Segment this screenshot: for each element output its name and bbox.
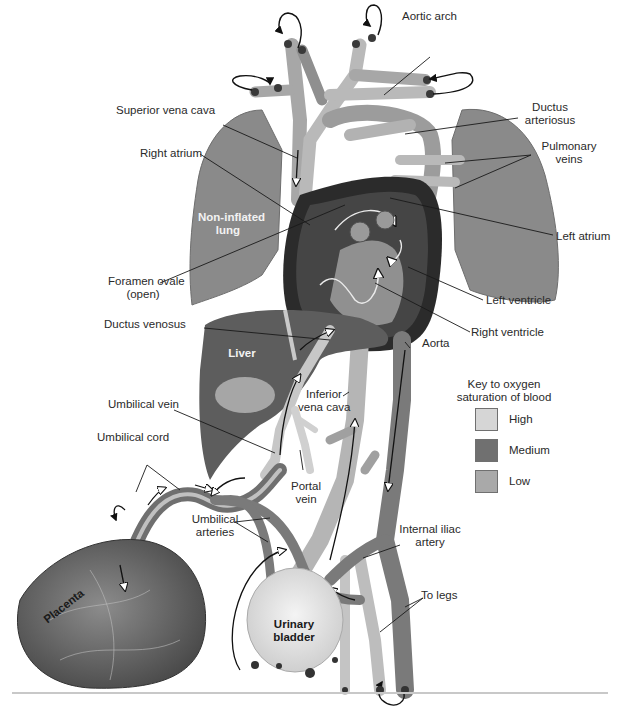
label-non-inflated-lung-line1: Non-inflated bbox=[198, 211, 258, 224]
label-inferior-vena-cava: Inferior vena cava bbox=[298, 388, 350, 414]
label-umbilical-arteries-line2: arteries bbox=[190, 526, 240, 539]
key-swatch-medium bbox=[475, 439, 498, 462]
label-internal-iliac-artery-line1: Internal iliac bbox=[392, 523, 468, 536]
key-title-line1: Key to oxygen bbox=[436, 378, 572, 391]
label-internal-iliac-artery-line2: artery bbox=[392, 536, 468, 549]
label-foramen-ovale-line1: Foramen ovale bbox=[108, 275, 178, 288]
label-pulmonary-veins-line1: Pulmonary bbox=[536, 140, 602, 153]
label-urinary-bladder: Urinary bladder bbox=[266, 618, 322, 644]
label-urinary-bladder-line2: bladder bbox=[266, 631, 322, 644]
label-ductus-venosus: Ductus venosus bbox=[104, 318, 186, 331]
label-to-legs: To legs bbox=[421, 589, 457, 602]
label-left-atrium: Left atrium bbox=[556, 230, 610, 243]
label-urinary-bladder-line1: Urinary bbox=[266, 618, 322, 631]
label-right-ventricle: Right ventricle bbox=[471, 326, 544, 339]
key-title: Key to oxygen saturation of blood bbox=[436, 378, 572, 404]
label-ductus-arteriosus-line1: Ductus bbox=[520, 101, 580, 114]
label-internal-iliac-artery: Internal iliac artery bbox=[392, 523, 468, 549]
label-left-ventricle: Left ventricle bbox=[486, 294, 551, 307]
label-umbilical-cord: Umbilical cord bbox=[97, 431, 169, 444]
label-superior-vena-cava: Superior vena cava bbox=[116, 104, 215, 117]
label-foramen-ovale-line2: (open) bbox=[108, 288, 178, 301]
label-umbilical-vein: Umbilical vein bbox=[108, 398, 179, 411]
label-pulmonary-veins: Pulmonary veins bbox=[536, 140, 602, 166]
bottom-divider bbox=[12, 692, 608, 694]
key-swatch-high bbox=[475, 408, 498, 431]
label-non-inflated-lung: Non-inflated lung bbox=[198, 211, 258, 237]
label-umbilical-arteries-line1: Umbilical bbox=[190, 513, 240, 526]
label-right-atrium: Right atrium bbox=[140, 147, 202, 160]
key-swatch-low bbox=[475, 470, 498, 493]
label-pulmonary-veins-line2: veins bbox=[536, 153, 602, 166]
label-aortic-arch: Aortic arch bbox=[402, 10, 457, 23]
key-label-high: High bbox=[509, 413, 533, 425]
key-title-line2: saturation of blood bbox=[436, 391, 572, 404]
label-liver: Liver bbox=[222, 347, 262, 360]
label-non-inflated-lung-line2: lung bbox=[198, 224, 258, 237]
label-portal-vein: Portal vein bbox=[288, 480, 324, 506]
key-label-medium: Medium bbox=[509, 444, 550, 456]
label-ductus-arteriosus-line2: arteriosus bbox=[520, 114, 580, 127]
right-lung bbox=[190, 110, 282, 305]
label-foramen-ovale: Foramen ovale (open) bbox=[108, 275, 178, 301]
label-ductus-arteriosus: Ductus arteriosus bbox=[520, 101, 580, 127]
key-label-low: Low bbox=[509, 475, 530, 487]
label-aorta: Aorta bbox=[422, 337, 450, 350]
label-inferior-vena-cava-line2: vena cava bbox=[298, 401, 350, 414]
left-lung bbox=[452, 109, 558, 302]
label-inferior-vena-cava-line1: Inferior bbox=[298, 388, 350, 401]
label-portal-vein-line2: vein bbox=[288, 493, 324, 506]
label-portal-vein-line1: Portal bbox=[288, 480, 324, 493]
fetal-circulation-diagram: Aortic arch Superior vena cava Ductus ar… bbox=[0, 0, 618, 713]
label-umbilical-arteries: Umbilical arteries bbox=[190, 513, 240, 539]
